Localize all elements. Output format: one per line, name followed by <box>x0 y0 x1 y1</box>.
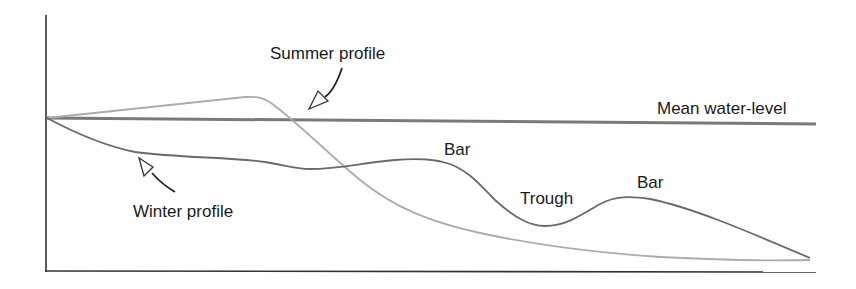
summer-profile-arrow-icon <box>309 68 342 109</box>
beach-profile-diagram <box>0 0 856 289</box>
winter-profile-line <box>47 118 810 258</box>
winter-profile-label: Winter profile <box>133 203 233 220</box>
winter-profile-arrow-icon <box>139 158 175 192</box>
x-axis <box>45 271 816 272</box>
mean-water-level-line <box>47 118 816 124</box>
bar-label-2: Bar <box>637 174 663 191</box>
summer-profile-label: Summer profile <box>270 45 385 62</box>
bar-label-1: Bar <box>444 141 470 158</box>
mean-water-level-label: Mean water-level <box>657 100 786 117</box>
trough-label: Trough <box>520 190 573 207</box>
